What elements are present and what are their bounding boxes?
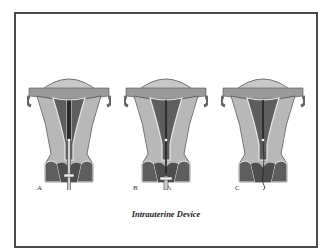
- panel-label-a: A: [37, 184, 42, 192]
- uterus-diagram-c: [221, 64, 305, 190]
- uterus-diagram-b: [124, 64, 208, 190]
- uterus-illustration-a: [27, 64, 111, 190]
- panel-label-b: B: [133, 184, 138, 192]
- panel-label-c: C: [235, 184, 240, 192]
- uterus-diagram-a: [27, 64, 111, 190]
- uterus-illustration-c: [221, 64, 305, 190]
- uterus-illustration-b: [124, 64, 208, 190]
- figure-caption: Intrauterine Device: [16, 209, 316, 219]
- figure-frame: A B: [14, 12, 318, 248]
